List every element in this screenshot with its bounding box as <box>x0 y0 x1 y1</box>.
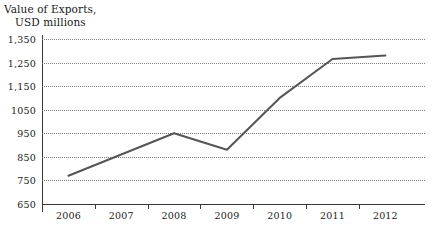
x-axis-tick-label: 2011 <box>320 210 345 221</box>
x-axis-tick <box>306 204 307 209</box>
x-axis-tick <box>42 204 43 209</box>
y-axis-tick-labels: 65075085095010501,1501,2501,350 <box>0 39 36 204</box>
x-axis-tick <box>200 204 201 209</box>
y-axis-tick-label: 950 <box>17 128 36 139</box>
x-axis-tick-label: 2012 <box>373 210 398 221</box>
y-axis-tick-label: 1,250 <box>8 57 36 68</box>
y-axis-tick-label: 850 <box>17 151 36 162</box>
y-axis-tick-label: 650 <box>17 199 36 210</box>
y-axis-tick-label: 1,350 <box>8 34 36 45</box>
y-axis-tick-label: 750 <box>17 175 36 186</box>
x-axis-tick <box>359 204 360 209</box>
chart-title: Value of Exports,USD millions <box>4 3 96 28</box>
chart-title-line-2: USD millions <box>4 16 96 29</box>
x-axis-tick <box>148 204 149 209</box>
x-axis-tick-label: 2010 <box>267 210 292 221</box>
chart-figure: Value of Exports,USD millions 6507508509… <box>0 0 434 231</box>
plot-area <box>42 39 425 204</box>
x-axis-tick-labels: 2006200720082009201020112012 <box>42 210 425 226</box>
x-axis-tick <box>253 204 254 209</box>
series-line-exports <box>42 39 425 204</box>
x-axis-tick <box>95 204 96 209</box>
x-axis-tick-label: 2008 <box>162 210 187 221</box>
chart-title-line-1: Value of Exports, <box>4 3 96 15</box>
x-axis-tick-label: 2006 <box>56 210 81 221</box>
x-axis-tick-label: 2009 <box>214 210 239 221</box>
y-axis-tick-label: 1050 <box>11 104 36 115</box>
x-axis-tick-label: 2007 <box>109 210 134 221</box>
y-axis-tick-label: 1,150 <box>8 81 36 92</box>
